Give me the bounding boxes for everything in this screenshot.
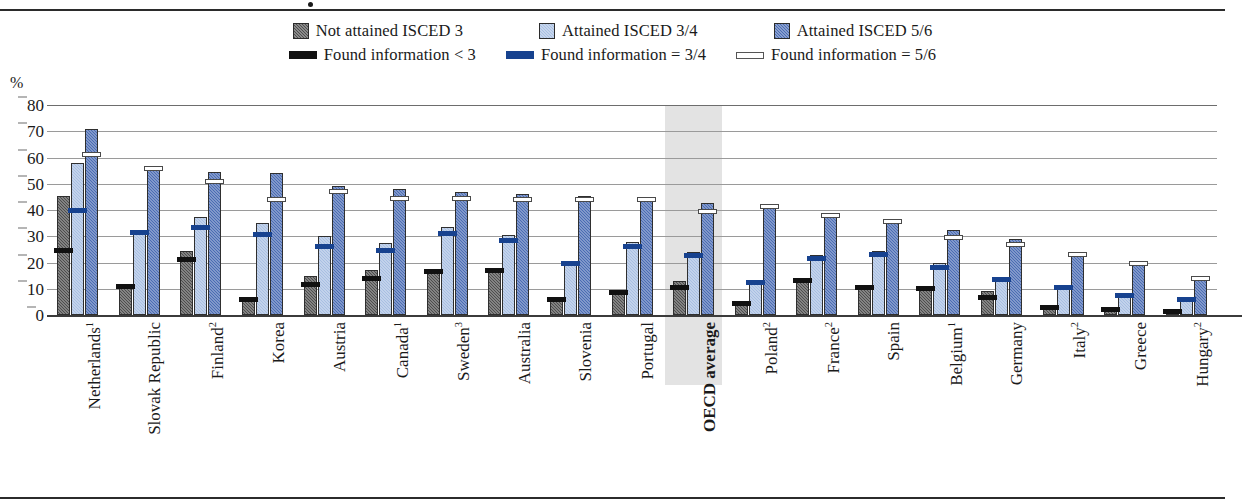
y-axis-tick-mark <box>18 97 27 98</box>
marker-finland-m1 <box>191 225 210 230</box>
bar-poland-s2 <box>763 207 776 315</box>
marker-austria-m0 <box>301 282 320 287</box>
marker-australia-m0 <box>485 268 504 273</box>
x-axis-label-slovak-republic: Slovak Republic <box>146 322 163 435</box>
marker-canada-m2 <box>390 196 409 201</box>
marker-slovenia-m2 <box>575 197 594 202</box>
bar-portugal-s2 <box>640 197 653 315</box>
y-axis-tick-label: 70 <box>27 123 44 140</box>
bar-netherlands-s1 <box>71 163 84 315</box>
legend-label: Attained ISCED 3/4 <box>562 21 698 41</box>
marker-netherlands-m1 <box>68 208 87 213</box>
y-axis-tick-mark <box>18 228 27 229</box>
legend-line-icon <box>289 51 317 59</box>
legend-swatch-icon <box>539 23 555 39</box>
x-axis-label-sweden: Sweden3 <box>454 322 472 381</box>
title-tick-left <box>308 2 313 7</box>
gridline-30 <box>47 236 1217 237</box>
bar-australia-s0 <box>488 268 501 315</box>
bar-oecd-average-s1 <box>687 252 700 315</box>
x-axis-label-footnote: 3 <box>453 322 464 327</box>
x-axis-label-hungary: Hungary2 <box>1193 322 1211 387</box>
marker-belgium-m1 <box>930 265 949 270</box>
bar-sweden-s0 <box>427 272 440 315</box>
legend-found-information-56: Found information = 5/6 <box>736 45 936 65</box>
marker-italy-m2 <box>1068 252 1087 257</box>
x-axis-label-korea: Korea <box>270 322 287 364</box>
marker-slovenia-m1 <box>561 261 580 266</box>
marker-italy-m0 <box>1040 305 1059 310</box>
y-axis-tick-mark <box>18 280 27 281</box>
bar-slovenia-s1 <box>564 261 577 315</box>
marker-oecd-average-m1 <box>684 253 703 258</box>
x-axis-label-netherlands: Netherlands1 <box>85 322 103 409</box>
marker-australia-m1 <box>499 238 518 243</box>
bar-france-s2 <box>824 214 837 315</box>
marker-poland-m1 <box>746 280 765 285</box>
legend-label: Found information = 5/6 <box>771 45 936 65</box>
marker-sweden-m2 <box>452 196 471 201</box>
marker-belgium-m0 <box>916 286 935 291</box>
x-axis-label-footnote: 2 <box>1192 322 1203 327</box>
y-axis-tick-mark <box>18 149 27 150</box>
marker-slovenia-m0 <box>547 297 566 302</box>
marker-slovak-republic-m0 <box>116 284 135 289</box>
marker-slovak-republic-m1 <box>130 230 149 235</box>
legend-found-information-34: Found information = 3/4 <box>506 45 706 65</box>
marker-canada-m1 <box>376 248 395 253</box>
x-axis-label-slovenia: Slovenia <box>577 322 594 382</box>
plot-area: 01020304050607080 <box>47 105 1217 315</box>
bar-korea-s2 <box>270 173 283 315</box>
marker-hungary-m0 <box>1163 309 1182 314</box>
bar-slovak-republic-s1 <box>133 231 146 315</box>
x-axis-label-austria: Austria <box>331 322 348 372</box>
bar-slovak-republic-s0 <box>119 286 132 315</box>
legend-swatch-icon <box>774 23 790 39</box>
bar-slovak-republic-s2 <box>147 167 160 315</box>
marker-france-m2 <box>821 213 840 218</box>
bar-sweden-s2 <box>455 192 468 315</box>
marker-korea-m2 <box>267 197 286 202</box>
legend-line-icon <box>736 52 764 59</box>
bar-hungary-s2 <box>1194 276 1207 315</box>
bar-australia-s2 <box>516 194 529 315</box>
bar-finland-s1 <box>194 217 207 315</box>
marker-oecd-average-m0 <box>670 285 689 290</box>
y-axis-tick-label: 10 <box>27 280 44 297</box>
gridline-80 <box>47 105 1217 106</box>
bar-slovenia-s2 <box>578 196 591 315</box>
x-axis-label-belgium: Belgium1 <box>947 322 965 386</box>
x-axis-label-germany: Germany <box>1008 322 1025 385</box>
x-axis-label-italy: Italy2 <box>1070 322 1088 358</box>
x-axis-label-france: France2 <box>824 322 842 374</box>
x-axis-label-footnote: 2 <box>207 322 218 327</box>
marker-canada-m0 <box>362 276 381 281</box>
legend-label: Found information < 3 <box>324 45 476 65</box>
y-axis-tick-label: 50 <box>27 175 44 192</box>
bottom-rule <box>0 497 1225 499</box>
marker-finland-m0 <box>177 257 196 262</box>
x-axis-baseline <box>47 315 1242 317</box>
legend-label: Found information = 3/4 <box>541 45 706 65</box>
marker-germany-m1 <box>992 277 1011 282</box>
y-axis-tick-label: 60 <box>27 149 44 166</box>
legend-row-lines: Found information < 3Found information =… <box>0 43 1225 67</box>
bar-spain-s2 <box>886 221 899 316</box>
marker-slovak-republic-m2 <box>144 166 163 171</box>
y-axis-tick-label: 80 <box>27 97 44 114</box>
x-axis-label-footnote: 2 <box>1069 322 1080 327</box>
y-axis-unit-label: % <box>10 74 23 92</box>
x-axis-label-australia: Australia <box>516 322 533 384</box>
legend-swatch-icon <box>293 23 309 39</box>
marker-spain-m2 <box>883 219 902 224</box>
y-axis-tick-mark <box>18 202 27 203</box>
marker-hungary-m2 <box>1191 276 1210 281</box>
marker-korea-m0 <box>239 297 258 302</box>
x-axis-label-canada: Canada1 <box>393 322 411 378</box>
x-axis-label-footnote: 1 <box>946 322 957 327</box>
marker-sweden-m1 <box>438 231 457 236</box>
y-axis-tick-label: 30 <box>27 228 44 245</box>
gridline-50 <box>47 184 1217 185</box>
marker-france-m0 <box>793 278 812 283</box>
marker-greece-m2 <box>1129 261 1148 266</box>
